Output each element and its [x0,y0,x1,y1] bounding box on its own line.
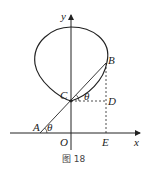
angle-theta-A: θ [47,121,53,133]
x-axis-label: x [133,136,139,148]
point-D-label: D [107,95,116,107]
figure-caption: 图 18 [62,154,86,164]
point-C-label: C [60,89,68,101]
diagram-canvas: y x O B C D E A θ θ 图 18 [0,0,148,175]
point-A-label: A [32,121,40,133]
point-B-label: B [108,54,115,66]
point-E-label: E [101,136,109,148]
angle-theta-C: θ [84,90,90,102]
origin-label: O [60,136,68,148]
point-C-dot [70,100,73,103]
y-axis-label: y [60,10,66,22]
